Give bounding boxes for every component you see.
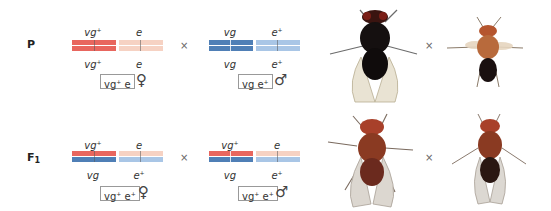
- allele-label: vg+: [73, 138, 113, 151]
- allele-label: vg+: [73, 25, 113, 38]
- fly-photo-wildtype-female: [325, 112, 420, 210]
- allele-label: vg+: [73, 57, 113, 70]
- allele-label: vg: [73, 168, 113, 181]
- chromosome-vg-locus: [209, 40, 253, 51]
- allele-label: e+: [119, 168, 159, 181]
- allele-label: e: [257, 138, 297, 151]
- male-symbol-icon: ♂: [275, 185, 288, 200]
- allele-label: e: [119, 138, 159, 151]
- allele-label: vg: [210, 168, 250, 181]
- female-symbol-icon: ♀: [138, 185, 149, 200]
- female-symbol-icon: ♀: [136, 73, 147, 88]
- genotype-box: vg e+: [238, 74, 273, 89]
- genotype-box: vg+ e+: [100, 186, 140, 201]
- fly-photo-vestigial-male: [445, 15, 525, 95]
- photo-cross-symbol: ×: [425, 152, 433, 163]
- generation-label-f1: F1: [27, 151, 40, 165]
- fly-photo-wildtype-male: [448, 112, 533, 207]
- fly-photo-ebony-female: [325, 2, 425, 105]
- chromosome-e-locus: [119, 40, 163, 51]
- chromosome-vg-locus: [72, 40, 116, 51]
- cross-symbol: ×: [180, 40, 188, 51]
- allele-label: vg: [210, 57, 250, 70]
- allele-label: e+: [257, 25, 297, 38]
- allele-label: e: [119, 57, 159, 70]
- cross-symbol: ×: [180, 152, 188, 163]
- chromosome-vg-locus: [72, 151, 116, 162]
- generation-label-p: P: [27, 38, 35, 51]
- chromosome-vg-locus: [209, 151, 253, 162]
- allele-label: e+: [257, 168, 297, 181]
- chromosome-e-locus: [119, 151, 163, 162]
- genotype-box: vg+ e: [100, 74, 135, 89]
- allele-label: e: [119, 25, 159, 38]
- male-symbol-icon: ♂: [274, 73, 287, 88]
- allele-label: vg: [210, 25, 250, 38]
- photo-cross-symbol: ×: [425, 40, 433, 51]
- genotype-box: vg+ e+: [238, 186, 278, 201]
- chromosome-e-locus: [256, 151, 300, 162]
- allele-label: e+: [257, 57, 297, 70]
- allele-label: vg+: [210, 138, 250, 151]
- chromosome-e-locus: [256, 40, 300, 51]
